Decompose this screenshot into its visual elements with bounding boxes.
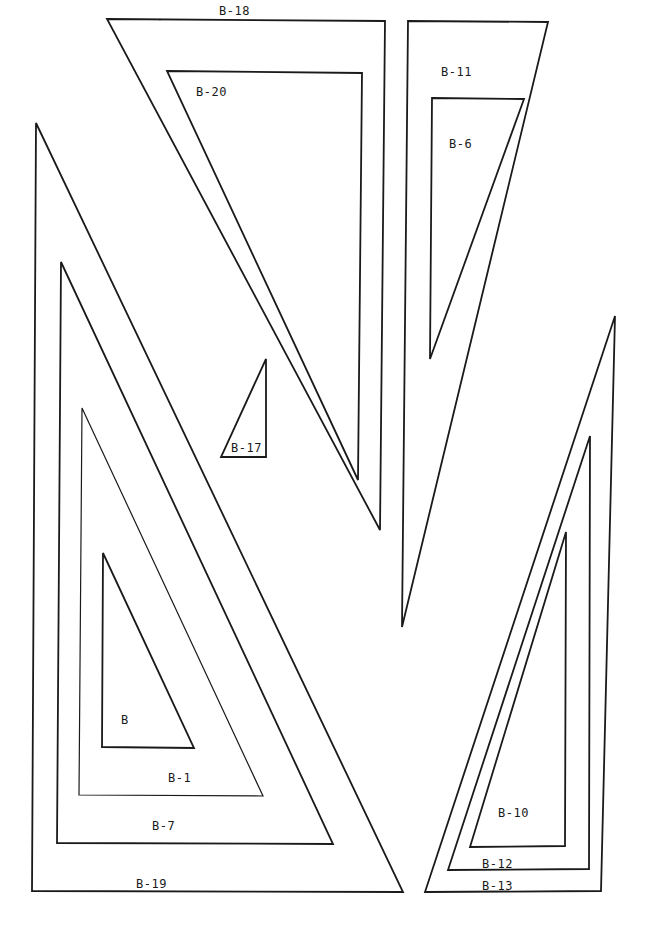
triangle-b-1 — [79, 408, 263, 796]
top-right-nested-group: B-11 B-6 — [402, 21, 548, 627]
triangle-b — [102, 553, 194, 748]
triangle-b-19 — [32, 123, 403, 892]
label-b-20: B-20 — [196, 85, 227, 99]
triangle-b-11 — [402, 21, 548, 627]
triangle-b-7 — [57, 262, 333, 844]
bottom-right-nested-group: B-13 B-12 B-10 — [425, 316, 615, 893]
label-b-11: B-11 — [441, 65, 472, 79]
left-nested-group: B-19 B-7 B-1 B — [32, 123, 403, 892]
label-b-12: B-12 — [482, 857, 513, 871]
label-b-17: B-17 — [231, 441, 262, 455]
label-b-13: B-13 — [482, 879, 513, 893]
triangle-b-10 — [470, 532, 566, 847]
label-b-19: B-19 — [136, 877, 167, 891]
triangle-b-20 — [167, 71, 362, 480]
label-b-7: B-7 — [152, 819, 175, 833]
nested-triangles-diagram: B-19 B-7 B-1 B B-18 B-20 B-17 B-11 B-6 B… — [0, 0, 650, 937]
triangle-b-12 — [448, 436, 590, 870]
label-b-10: B-10 — [498, 806, 529, 820]
small-triangle-group: B-17 — [221, 359, 266, 457]
label-b-1: B-1 — [168, 771, 191, 785]
label-b-18: B-18 — [219, 4, 250, 18]
label-b-6: B-6 — [449, 137, 472, 151]
label-b: B — [121, 713, 129, 727]
